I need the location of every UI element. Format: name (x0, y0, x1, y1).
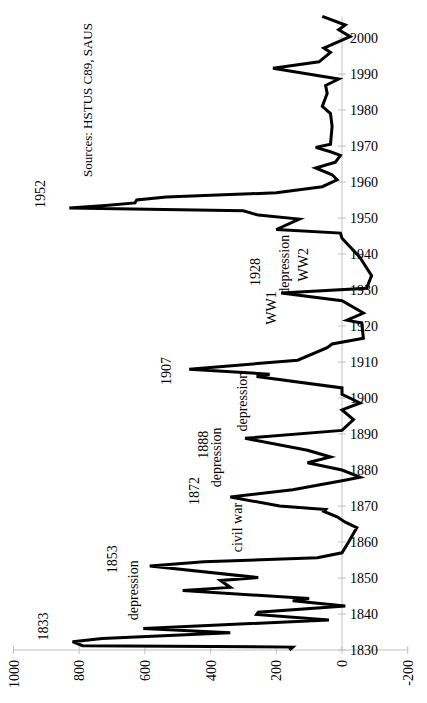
annotation-label: 1952 (33, 180, 48, 208)
annotation-label: 1888 (196, 431, 211, 459)
value-tick-label: 200 (269, 660, 284, 681)
annotation-label: 1928 (248, 258, 263, 286)
annotation-label: civil war (230, 503, 245, 553)
rotated-line-chart: 1830184018501860187018801890190019101920… (0, 0, 427, 703)
annotation-label: WW1 (264, 291, 279, 324)
year-axis-ticks: 1830184018501860187018801890190019101920… (338, 31, 378, 658)
value-tick-label: -200 (401, 660, 416, 686)
year-tick-label: 1950 (350, 211, 378, 226)
axes (14, 16, 408, 650)
annotation-label: depression (126, 560, 141, 620)
value-tick-label: 800 (72, 660, 87, 681)
year-tick-label: 1980 (350, 103, 378, 118)
annotation-label: 1872 (187, 477, 202, 505)
year-tick-label: 1840 (350, 607, 378, 622)
year-tick-label: 1850 (350, 571, 378, 586)
annotation-label: 1907 (159, 357, 174, 385)
source-note: Sources: HSTUS C89, SAUS (80, 23, 95, 177)
annotation-label: depression (277, 235, 292, 295)
annotation-label: 1853 (105, 545, 120, 573)
annotation-label: 1833 (36, 613, 51, 641)
value-tick-label: 0 (335, 660, 350, 667)
year-tick-label: 1960 (350, 175, 378, 190)
year-tick-label: 1870 (350, 499, 378, 514)
year-tick-label: 2000 (350, 31, 378, 46)
year-tick-label: 1830 (350, 643, 378, 658)
annotation-label: WW2 (296, 248, 311, 281)
year-tick-label: 1910 (350, 355, 378, 370)
year-tick-label: 1860 (350, 535, 378, 550)
value-tick-label: 1000 (7, 660, 22, 688)
year-tick-label: 1930 (350, 283, 378, 298)
value-tick-label: 600 (138, 660, 153, 681)
annotations: 1833depression1853civil war1872depressio… (33, 180, 311, 641)
year-tick-label: 1970 (350, 139, 378, 154)
year-tick-label: 1890 (350, 427, 378, 442)
year-tick-label: 1990 (350, 67, 378, 82)
annotation-label: depression (235, 372, 250, 432)
value-tick-label: 400 (204, 660, 219, 681)
